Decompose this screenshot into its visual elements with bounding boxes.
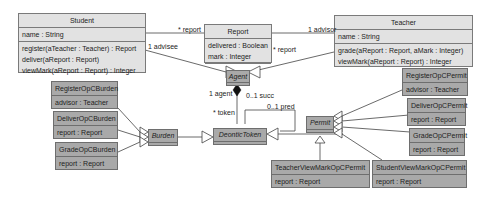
operation: deliver(aReport : Report) bbox=[22, 54, 142, 65]
class-grade-opc-burden[interactable]: GradeOpCBurden report : Report bbox=[55, 142, 118, 170]
attribute: advisor : Teacher bbox=[406, 84, 464, 95]
class-agent[interactable]: Agent bbox=[226, 70, 250, 86]
class-report[interactable]: Report delivered : Boolean mark : Intege… bbox=[204, 24, 272, 63]
attribute: mark : Integer bbox=[208, 51, 268, 62]
class-register-opc-permit[interactable]: RegisterOpCPermit advisor : Teacher bbox=[402, 68, 468, 96]
class-name: GradeOpCBurden bbox=[56, 143, 117, 157]
class-register-opc-burden[interactable]: RegisterOpCBurden advisor : Teacher bbox=[51, 81, 118, 109]
class-teacher-view-mark-opc-permit[interactable]: TeacherViewMarkOpCPermit report : Report bbox=[271, 160, 370, 188]
class-name: StudentViewMarkOpCPermit bbox=[373, 161, 466, 175]
class-name: GradeOpCPermit bbox=[410, 129, 464, 143]
class-name: RegisterOpCPermit bbox=[403, 69, 467, 83]
class-name: Teacher bbox=[335, 16, 472, 30]
operation: register(aTeacher : Teacher) : Report bbox=[22, 43, 142, 54]
class-deliver-opc-permit[interactable]: DeliverOpCPermit report : Report bbox=[407, 98, 466, 126]
attribute: report : Report bbox=[275, 176, 366, 187]
class-deontic-token[interactable]: DeonticToken bbox=[213, 128, 267, 145]
class-name: DeliverOpCBurden bbox=[54, 112, 117, 126]
class-name: DeliverOpCPermit bbox=[408, 99, 465, 113]
role-label-student-report: * report bbox=[178, 26, 201, 33]
class-name: Agent bbox=[227, 71, 249, 83]
attribute: report : Report bbox=[411, 114, 462, 125]
class-name: Report bbox=[205, 25, 271, 39]
attribute: report : Report bbox=[376, 176, 463, 187]
operation: viewMark(aReport : Report) : Integer bbox=[22, 65, 142, 76]
class-name: RegisterOpCBurden bbox=[52, 82, 117, 96]
role-label-teacher-report: * report bbox=[273, 46, 296, 53]
class-name: TeacherViewMarkOpCPermit bbox=[272, 161, 369, 175]
class-burden[interactable]: Burden bbox=[148, 129, 178, 146]
attribute: report : Report bbox=[59, 158, 114, 169]
role-label-pred: 0..1 pred bbox=[267, 103, 295, 110]
class-student-view-mark-opc-permit[interactable]: StudentViewMarkOpCPermit report : Report bbox=[372, 160, 467, 188]
class-deliver-opc-burden[interactable]: DeliverOpCBurden report : Report bbox=[53, 111, 118, 139]
attribute: report : Report bbox=[57, 127, 114, 138]
role-label-succ: 0..1 succ bbox=[246, 92, 274, 99]
role-label-token: * token bbox=[213, 109, 235, 116]
class-student[interactable]: Student name : String register(aTeacher … bbox=[18, 13, 146, 73]
role-label-advisee: 1 advisee bbox=[148, 43, 178, 50]
class-name: DeonticToken bbox=[214, 129, 266, 142]
attribute: report : Report bbox=[413, 144, 461, 155]
class-name: Permit bbox=[307, 117, 333, 130]
class-permit[interactable]: Permit bbox=[306, 116, 334, 133]
role-label-advisor: 1 advisor bbox=[308, 26, 336, 33]
operation: grade(aReport : Report, aMark : Integer) bbox=[338, 45, 469, 56]
role-label-agent: 1 agent bbox=[209, 90, 232, 97]
attribute: name : String bbox=[338, 31, 469, 42]
class-name: Student bbox=[19, 14, 145, 28]
class-grade-opc-permit[interactable]: GradeOpCPermit report : Report bbox=[409, 128, 465, 156]
class-teacher[interactable]: Teacher name : String grade(aReport : Re… bbox=[334, 15, 473, 67]
attribute: delivered : Boolean bbox=[208, 40, 268, 51]
attribute: name : String bbox=[22, 29, 142, 40]
attribute: advisor : Teacher bbox=[55, 97, 114, 108]
class-name: Burden bbox=[149, 130, 177, 143]
operation: viewMark(aReport : Report) : Integer bbox=[338, 56, 469, 67]
